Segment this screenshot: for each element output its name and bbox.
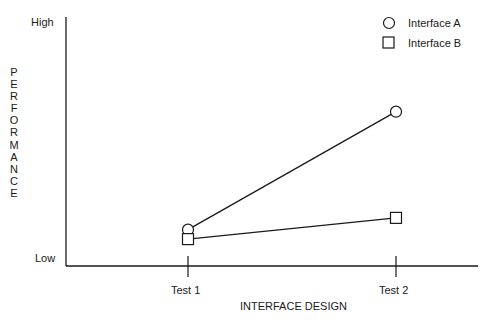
series-line-a [188,112,396,230]
series-line-b [188,218,396,239]
legend-label-a: Interface A [408,17,461,29]
data-point-circle-icon [391,106,402,117]
x-axis-title: INTERFACE DESIGN [240,300,347,312]
x-tick-label-test2: Test 2 [379,284,408,296]
legend-label-b: Interface B [408,37,461,49]
legend-circle-icon [384,18,395,29]
legend-square-icon [383,37,394,48]
y-tick-low: Low [35,252,55,264]
x-tick-label-test1: Test 1 [171,284,200,296]
data-point-square-icon [391,212,402,223]
y-axis-title: PERFORMANCE [8,66,20,199]
data-point-square-icon [183,234,194,245]
y-tick-high: High [31,16,54,28]
